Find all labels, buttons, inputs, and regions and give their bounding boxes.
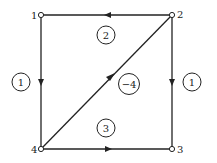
region-label-right: 1 (189, 77, 195, 88)
arrow-right-icon (105, 146, 112, 152)
node-2 (169, 12, 174, 17)
network-diagram: 1 2 3 4 1 1 2 −4 3 (0, 0, 217, 163)
node-label-4: 4 (31, 144, 37, 155)
node-label-3: 3 (177, 144, 183, 155)
region-label-center: −4 (122, 79, 137, 90)
node-label-1: 1 (31, 10, 37, 21)
arrow-left-icon (104, 12, 111, 18)
region-label-top: 2 (103, 30, 109, 41)
node-label-2: 2 (177, 9, 183, 20)
arrow-up-right-icon (106, 73, 115, 81)
region-label-left: 1 (18, 77, 24, 88)
arrow-down-icon (169, 79, 175, 86)
node-1 (38, 12, 43, 17)
node-3 (169, 146, 174, 151)
region-label-bottom: 3 (103, 123, 109, 134)
arrow-down-icon (38, 79, 44, 86)
node-4 (38, 146, 43, 151)
